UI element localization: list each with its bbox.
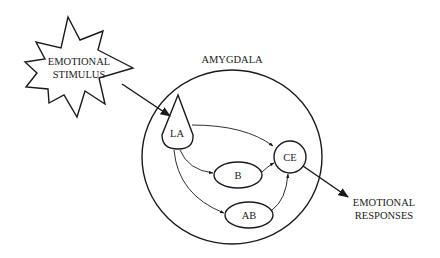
b-label: B <box>234 170 241 181</box>
ab-node: AB <box>225 202 273 228</box>
b-node: B <box>214 162 262 188</box>
edge-la-to-b <box>180 150 213 173</box>
amygdala-diagram: EMOTIONAL STIMULUS AMYGDALA LA B AB CE E… <box>0 0 440 258</box>
emotional-responses-output: EMOTIONAL RESPONSES <box>353 197 415 221</box>
edge-stimulus-to-la <box>122 84 170 116</box>
ce-label: CE <box>283 152 296 163</box>
edge-b-to-ce <box>262 163 274 172</box>
edge-la-to-ce <box>192 125 273 146</box>
stimulus-label-line1: EMOTIONAL <box>48 56 110 67</box>
responses-label-line2: RESPONSES <box>355 210 414 221</box>
amygdala-region: AMYGDALA <box>142 54 322 244</box>
edge-ce-to-responses <box>303 166 348 197</box>
starburst-shape <box>25 17 133 117</box>
ab-label: AB <box>242 210 257 221</box>
responses-label-line1: EMOTIONAL <box>353 197 415 208</box>
la-node: LA <box>162 95 193 149</box>
edge-ab-to-ce <box>272 174 288 210</box>
stimulus-label-line2: STIMULUS <box>53 69 106 80</box>
emotional-stimulus-node: EMOTIONAL STIMULUS <box>25 17 133 117</box>
ce-node: CE <box>274 141 306 173</box>
la-cone-shape <box>162 95 193 149</box>
amygdala-label: AMYGDALA <box>201 54 263 65</box>
la-label: LA <box>170 128 184 139</box>
